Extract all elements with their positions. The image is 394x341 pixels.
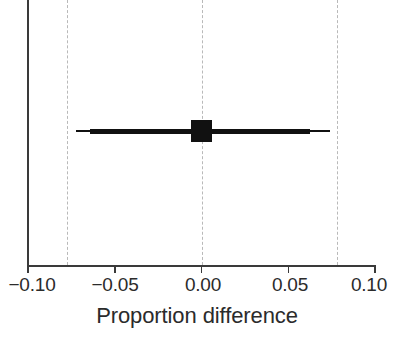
x-axis-title: Proportion difference [0,303,394,329]
x-tick-label-0: −0.10 [8,274,55,296]
x-tick-label-1: −0.05 [91,274,138,296]
y-axis-line [27,0,29,266]
reference-line-upper-margin [337,0,338,265]
x-tick-0 [27,266,29,273]
point-estimate-marker [191,120,212,142]
plot-area: −0.10 −0.05 0.00 0.05 0.10 [0,0,394,267]
x-tick-4 [374,266,376,273]
x-tick-label-3: 0.05 [272,274,308,296]
x-tick-label-2: 0.00 [185,274,221,296]
x-tick-3 [288,266,290,273]
forest-plot-figure: −0.10 −0.05 0.00 0.05 0.10 Proportion di… [0,0,394,341]
x-tick-2 [201,266,203,273]
x-tick-1 [114,266,116,273]
x-tick-label-4: 0.10 [351,274,387,296]
reference-line-lower-margin [67,0,68,265]
